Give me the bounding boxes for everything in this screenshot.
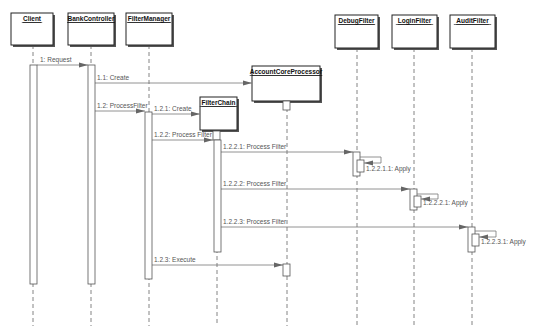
self-call[interactable]: 1.2.2.2.1: Apply	[417, 194, 469, 207]
message[interactable]: 1.2: ProcessFilter	[95, 102, 148, 114]
message-label: 1.2.2.3: Process Filter	[223, 218, 287, 225]
arrowhead-icon	[459, 225, 468, 230]
message[interactable]: 1.2.2.2: Process Filter	[221, 180, 410, 192]
object-loginfilter[interactable]: LoginFilter	[392, 15, 439, 50]
arrowhead-icon	[191, 112, 200, 117]
message-label: 1.2: ProcessFilter	[97, 102, 148, 109]
objects: ClientBankControllerFilterManagerAccount…	[11, 13, 497, 132]
message[interactable]: 1.2.1: Create	[152, 105, 200, 117]
activation-bar-debugfilter	[357, 160, 364, 172]
object-client[interactable]: Client	[11, 13, 55, 47]
message-label: 1.2.3: Execute	[154, 256, 196, 263]
arrowhead-icon	[344, 150, 353, 155]
activation-bar-filtermanager	[145, 112, 152, 279]
activation-bar-auditfilter	[472, 234, 479, 246]
object-bankcontroller[interactable]: BankController	[67, 13, 116, 47]
arrowhead-icon	[136, 109, 145, 114]
object-label: DebugFilter	[338, 17, 375, 25]
object-filterchain[interactable]: FilterChain	[200, 97, 239, 132]
activation-bar-filterchain	[213, 131, 220, 140]
arrowhead-icon	[401, 187, 410, 192]
activation-bar-loginfilter	[414, 196, 421, 207]
activation-bar-bankcontroller	[88, 65, 95, 284]
activation-bar-accountcoreprocessor	[283, 264, 290, 276]
message-label: 1.2.2.1: Process Filter	[223, 143, 287, 150]
object-filtermanager[interactable]: FilterManager	[126, 13, 174, 47]
message[interactable]: 1: Request	[37, 56, 88, 68]
message[interactable]: 1.2.2: Process Filter	[152, 131, 213, 143]
self-call[interactable]: 1.2.2.3.1: Apply	[475, 231, 527, 246]
object-label: AccountCoreProcessor	[250, 68, 323, 75]
message[interactable]: 1.2.3: Execute	[152, 256, 283, 268]
object-label: AuditFilter	[456, 17, 489, 24]
activation-bar-accountcoreprocessor	[283, 101, 290, 110]
arrowhead-icon	[243, 81, 252, 86]
arrowhead-icon	[274, 263, 283, 268]
self-call[interactable]: 1.2.2.1.1: Apply	[360, 157, 412, 173]
object-label: Client	[23, 15, 42, 22]
object-label: FilterManager	[128, 15, 171, 23]
object-accountcoreprocessor[interactable]: AccountCoreProcessor	[250, 66, 323, 103]
message[interactable]: 1.1: Create	[95, 74, 252, 86]
message[interactable]: 1.2.2.3: Process Filter	[221, 218, 468, 230]
self-call-label: 1.2.2.1.1: Apply	[366, 165, 412, 173]
object-auditfilter[interactable]: AuditFilter	[450, 15, 497, 50]
activation-bar-client	[30, 65, 37, 284]
sequence-diagram: ClientBankControllerFilterManagerAccount…	[0, 0, 533, 336]
self-call-label: 1.2.2.3.1: Apply	[481, 238, 527, 246]
object-label: BankController	[68, 15, 115, 22]
arrowhead-icon	[79, 63, 88, 68]
object-label: FilterChain	[202, 99, 236, 106]
object-label: LoginFilter	[398, 17, 432, 25]
self-call-label: 1.2.2.2.1: Apply	[423, 199, 469, 207]
message-label: 1.2.2: Process Filter	[154, 131, 213, 138]
self-calls: 1.2.2.1.1: Apply1.2.2.2.1: Apply1.2.2.3.…	[360, 157, 527, 246]
activation-bar-filterchain	[214, 140, 221, 252]
message-label: 1.2.2.2: Process Filter	[223, 180, 287, 187]
object-debugfilter[interactable]: DebugFilter	[335, 15, 380, 50]
message-label: 1: Request	[40, 56, 72, 64]
message-label: 1.1: Create	[97, 74, 130, 81]
message-label: 1.2.1: Create	[154, 105, 192, 112]
arrowhead-icon	[204, 138, 213, 143]
